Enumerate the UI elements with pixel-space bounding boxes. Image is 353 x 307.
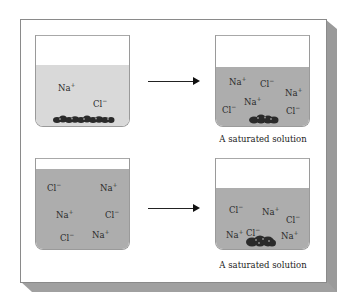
right-arrow-line <box>148 208 193 209</box>
caption-saturated-solution: A saturated solution <box>203 260 323 270</box>
beaker-bottom-right: Cl− Na+ Cl− Na+ Cl− Na+ <box>215 158 310 250</box>
beaker-bottom-left: Cl− Na+ Na+ Cl− Cl− Na+ <box>35 158 130 250</box>
salt-crystals-icon <box>249 114 279 124</box>
ion-label: Cl− <box>47 184 61 193</box>
right-arrow-icon <box>193 204 200 212</box>
right-arrow-icon <box>193 77 200 85</box>
ion-label: Cl− <box>286 216 300 225</box>
ion-label: Na+ <box>226 231 244 240</box>
beaker-top-left: Na+ Cl− <box>35 35 130 127</box>
ion-label: Na+ <box>244 98 262 107</box>
salt-crystals-icon <box>53 115 115 124</box>
ion-label: Cl− <box>229 206 243 215</box>
ion-label: Cl− <box>222 106 236 115</box>
ion-label: Cl− <box>60 234 74 243</box>
ion-label: Na+ <box>229 78 247 87</box>
figure-container: Na+ Cl− Na+ Cl− Na+ Na+ Cl− Cl− <box>0 0 353 307</box>
right-arrow-line <box>148 81 193 82</box>
ion-label: Na+ <box>58 84 76 93</box>
ion-label: Na+ <box>262 208 280 217</box>
salt-crystals-icon <box>246 235 276 247</box>
beaker-top-right: Na+ Cl− Na+ Na+ Cl− Cl− <box>215 35 310 127</box>
ion-label: Na+ <box>92 231 110 240</box>
ion-label: Cl− <box>260 80 274 89</box>
ion-label: Cl− <box>93 100 107 109</box>
ion-label: Na+ <box>281 232 299 241</box>
ion-label: Na+ <box>285 89 303 98</box>
ion-label: Cl− <box>105 211 119 220</box>
ion-label: Cl− <box>286 107 300 116</box>
caption-saturated-solution: A saturated solution <box>203 134 323 144</box>
ion-label: Na+ <box>56 211 74 220</box>
ion-label: Na+ <box>100 184 118 193</box>
